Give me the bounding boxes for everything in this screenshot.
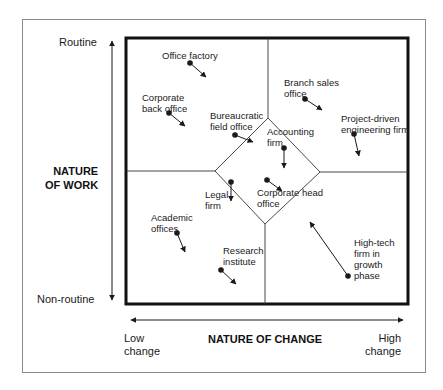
- item-label-office-factory: Office factory: [162, 50, 218, 61]
- movement-arrow-icon: [169, 113, 185, 126]
- position-dot-icon: [232, 132, 238, 138]
- item-accounting-firm: [281, 145, 287, 168]
- movement-arrow-icon: [305, 99, 322, 110]
- movement-arrow-icon: [177, 233, 185, 252]
- movement-arrow-icon: [354, 134, 359, 156]
- movement-arrow-icon: [190, 63, 206, 77]
- movement-arrow-icon: [221, 270, 236, 284]
- y-axis-top-label: Routine: [59, 36, 97, 49]
- item-label-branch-sales-office: Branch sales office: [284, 77, 339, 99]
- item-label-corporate-head-office: Corporate head office: [257, 187, 323, 209]
- item-label-legal-firm: Legal firm: [205, 189, 228, 211]
- x-axis-right-label: High change: [365, 332, 401, 358]
- y-axis-title: NATURE OF WORK: [45, 164, 98, 192]
- item-label-research-institute: Research institute: [223, 245, 264, 267]
- position-dot-icon: [264, 177, 270, 183]
- item-bureaucratic-field-office: [232, 132, 253, 142]
- x-axis-left-label: Low change: [124, 332, 160, 358]
- item-label-corporate-back-office: Corporate back office: [142, 92, 187, 114]
- item-high-tech-firm-in-growth-phase: [310, 222, 351, 279]
- item-label-bureaucratic-field-office: Bureaucratic field office: [210, 110, 263, 132]
- item-label-accounting-firm: Accounting firm: [267, 126, 314, 148]
- item-label-project-driven-engineering-firm: Project-driven engineering firm: [341, 113, 409, 135]
- item-research-institute: [218, 267, 236, 284]
- diagram: Routine NATURE OF WORK Non-routine Low c…: [0, 0, 443, 390]
- position-dot-icon: [228, 179, 234, 185]
- item-office-factory: [187, 60, 206, 77]
- movement-arrow-icon: [310, 222, 348, 276]
- item-label-high-tech-firm-in-growth-phase: High-tech firm in growth phase: [354, 237, 395, 281]
- x-axis-title: NATURE OF CHANGE: [208, 332, 322, 346]
- y-axis-bottom-label: Non-routine: [37, 293, 94, 306]
- position-dot-icon: [187, 60, 193, 66]
- item-label-academic-offices: Academic offices: [151, 212, 193, 234]
- position-dot-icon: [218, 267, 224, 273]
- position-dot-icon: [345, 273, 351, 279]
